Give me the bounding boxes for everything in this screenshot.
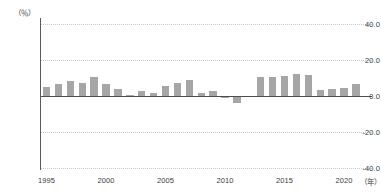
x-axis-tick-label: 2010	[216, 176, 233, 185]
bar	[305, 75, 312, 96]
bar	[269, 77, 276, 96]
bar	[233, 96, 240, 103]
y-axis-tick-label: -40.0	[345, 164, 380, 173]
gridline	[40, 132, 372, 133]
gridline	[40, 24, 372, 25]
bar	[43, 87, 50, 96]
y-axis-tick-label: 20.0	[345, 56, 380, 65]
bar	[114, 89, 121, 96]
bar	[174, 83, 181, 97]
gridline	[40, 168, 372, 169]
plot-area	[40, 24, 372, 168]
x-axis-tick-label: 1995	[38, 176, 55, 185]
zero-line	[40, 96, 372, 97]
x-axis-tick-label: 2000	[97, 176, 114, 185]
bar	[90, 77, 97, 96]
y-axis-line	[40, 18, 41, 170]
x-axis-tick-label: 2005	[157, 176, 174, 185]
bar	[328, 89, 335, 96]
x-axis-tick-label: 2020	[335, 176, 352, 185]
y-axis-unit-label: （％）	[0, 7, 35, 18]
bar	[186, 80, 193, 96]
y-axis-tick-label: -20.0	[345, 128, 380, 137]
x-axis-tick-label: 2015	[276, 176, 293, 185]
y-axis-tick-label: 0.0	[345, 92, 380, 101]
bar	[293, 74, 300, 96]
bar	[162, 86, 169, 96]
bar	[55, 84, 62, 96]
bar	[281, 76, 288, 96]
bar	[79, 83, 86, 96]
bar	[102, 84, 109, 96]
x-axis-unit-label: （年）	[360, 176, 381, 187]
gridline	[40, 60, 372, 61]
bar	[257, 77, 264, 96]
y-axis-tick-label: 40.0	[345, 20, 380, 29]
bar	[67, 81, 74, 96]
